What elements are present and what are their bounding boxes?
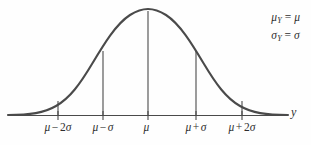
annotation-sd: σY=σ xyxy=(271,27,300,45)
tick-label-mu-symbol: μ xyxy=(92,121,98,133)
annotation-mean-value: μ xyxy=(294,11,300,23)
tick-label-mu: μ xyxy=(144,122,153,134)
tick-label-mu-symbol: μ xyxy=(44,121,50,133)
annotation-sd-operator: = xyxy=(282,29,295,41)
tick-label-mu-symbol: μ xyxy=(144,121,150,133)
annotation-mean-operator: = xyxy=(282,11,295,23)
parameter-annotations: μY=μ σY=σ xyxy=(271,9,300,45)
tick-label-minus-2-sigma: μ−2σ xyxy=(44,122,71,134)
annotation-sd-value: σ xyxy=(294,29,300,41)
y-axis-label: y xyxy=(291,106,296,118)
annotation-mean-subscript: Y xyxy=(277,16,282,25)
tick-label-sigma-symbol: σ xyxy=(250,121,256,133)
normal-distribution-figure: y μ−2σ μ−σ μ μ+σ μ+2σ μY=μ σY=σ xyxy=(0,0,311,145)
tick-label-sigma-symbol: σ xyxy=(66,121,72,133)
tick-label-minus-1-sigma: μ−σ xyxy=(92,122,113,134)
tick-label-operator xyxy=(149,121,152,133)
tick-label-mu-symbol: μ xyxy=(228,121,234,133)
tick-label-plus-2-sigma: μ+2σ xyxy=(228,122,255,134)
annotation-sd-subscript: Y xyxy=(277,34,282,43)
annotation-mean: μY=μ xyxy=(271,9,300,27)
tick-label-sigma-symbol: σ xyxy=(108,121,114,133)
annotation-sd-symbol: σ xyxy=(271,29,277,41)
tick-label-sigma-symbol: σ xyxy=(201,121,207,133)
tick-label-plus-1-sigma: μ+σ xyxy=(185,122,206,134)
tick-label-mu-symbol: μ xyxy=(185,121,191,133)
